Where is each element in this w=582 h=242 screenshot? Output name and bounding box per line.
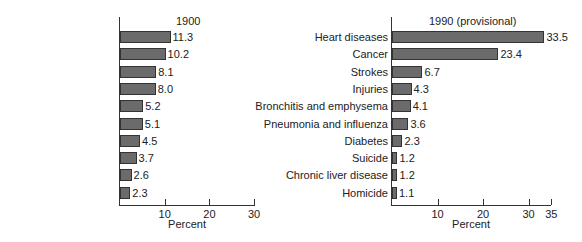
x-tick bbox=[529, 199, 530, 205]
category-label: Chronic liver disease bbox=[286, 169, 388, 181]
bar bbox=[392, 48, 498, 60]
category-label: Heart diseases bbox=[315, 31, 388, 43]
x-tick bbox=[483, 199, 484, 205]
category-label: Injuries bbox=[353, 83, 388, 95]
value-label: 33.5 bbox=[546, 31, 567, 43]
bar bbox=[392, 187, 397, 199]
x-axis-label-1990: Percent bbox=[452, 218, 490, 230]
chart-1990: 1990 (provisional) Heart diseases33.5Can… bbox=[0, 0, 582, 242]
bar bbox=[392, 169, 397, 181]
x-axis-1990 bbox=[391, 205, 551, 206]
value-label: 3.6 bbox=[410, 118, 425, 130]
category-label: Cancer bbox=[353, 48, 388, 60]
value-label: 1.1 bbox=[399, 187, 414, 199]
chart-title-1990: 1990 (provisional) bbox=[429, 15, 516, 27]
category-label: Pneumonia and influenza bbox=[264, 118, 388, 130]
category-label: Diabetes bbox=[345, 135, 388, 147]
category-label: Suicide bbox=[352, 152, 388, 164]
bar bbox=[392, 66, 422, 78]
bar bbox=[392, 100, 411, 112]
bar bbox=[392, 152, 397, 164]
bar bbox=[392, 31, 544, 43]
x-tick-label: 30 bbox=[522, 208, 534, 220]
value-label: 6.7 bbox=[424, 66, 439, 78]
value-label: 1.2 bbox=[399, 152, 414, 164]
category-label: Homicide bbox=[342, 187, 388, 199]
x-tick-label: 35 bbox=[545, 208, 557, 220]
value-label: 23.4 bbox=[500, 48, 521, 60]
x-tick bbox=[438, 199, 439, 205]
category-label: Bronchitis and emphysema bbox=[255, 100, 388, 112]
value-label: 4.1 bbox=[413, 100, 428, 112]
bar bbox=[392, 83, 412, 95]
value-label: 1.2 bbox=[399, 169, 414, 181]
x-tick-label: 10 bbox=[431, 208, 443, 220]
value-label: 2.3 bbox=[404, 135, 419, 147]
bar bbox=[392, 118, 408, 130]
value-label: 4.3 bbox=[414, 83, 429, 95]
category-label: Strokes bbox=[351, 66, 388, 78]
x-tick bbox=[551, 199, 552, 205]
bar bbox=[392, 135, 402, 147]
